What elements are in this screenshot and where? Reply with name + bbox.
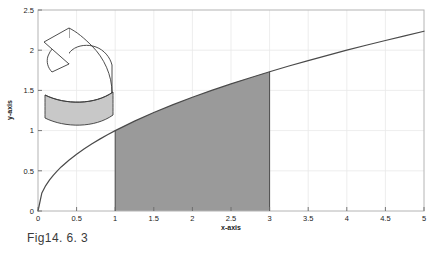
y-tick-label: 2.5 [24, 6, 34, 15]
y-tick-label: 0 [30, 207, 34, 216]
x-tick-label: 0 [36, 214, 40, 223]
x-tick-label: 5 [422, 214, 426, 223]
x-axis-title: x-axis [221, 224, 241, 231]
y-tick-label: 1.5 [24, 86, 34, 95]
figure-caption: Fig14. 6. 3 [27, 231, 88, 245]
x-tick-label: 2.5 [226, 214, 236, 223]
x-tick-label: 0.5 [71, 214, 81, 223]
x-tick-label: 4.5 [380, 214, 390, 223]
plot-area: 00.511.522.533.544.55 00.511.522.5 x-axi… [0, 0, 434, 258]
y-tick-label: 1 [30, 126, 34, 135]
y-axis-title: y-axis [6, 100, 14, 120]
x-tick-label: 3.5 [303, 214, 313, 223]
y-tick-label: 2 [30, 46, 34, 55]
x-tick-label: 3 [268, 214, 272, 223]
x-tick-label: 1.5 [149, 214, 159, 223]
x-tick-label: 2 [190, 214, 194, 223]
y-tick-label: 0.5 [24, 167, 34, 176]
x-tick-label: 1 [113, 214, 117, 223]
figure-container: 00.511.522.533.544.55 00.511.522.5 x-axi… [0, 0, 434, 258]
x-tick-label: 4 [345, 214, 349, 223]
